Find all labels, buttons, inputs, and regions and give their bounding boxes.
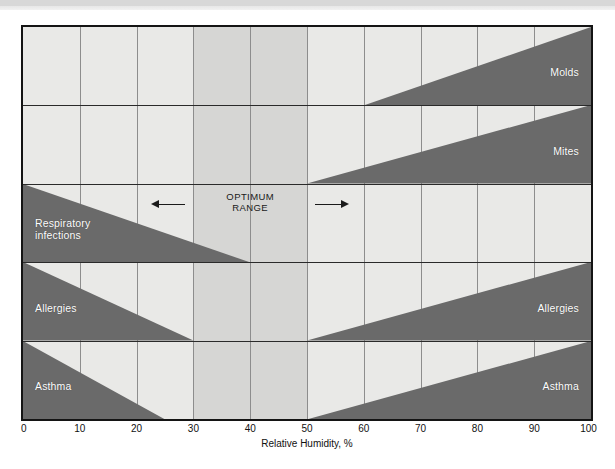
row-divider-4 [23, 341, 591, 342]
x-axis-title: Relative Humidity, % [21, 438, 593, 449]
optimum-range-label: OPTIMUM RANGE [193, 191, 307, 213]
band-label-mites: Mites [553, 145, 579, 157]
x-tick-100: 100 [580, 423, 597, 434]
optimum-arrow-head-left-icon [151, 200, 159, 208]
row-divider-1 [23, 105, 591, 106]
band-wedge-asthma-high-humidity [23, 341, 591, 419]
band-label-asthma-high-humidity: Asthma [543, 380, 580, 392]
band-wedge-allergies-high-humidity [23, 262, 591, 340]
x-tick-90: 90 [529, 423, 540, 434]
optimum-arrow-head-right-icon [341, 200, 349, 208]
band-row-0: Molds [23, 27, 591, 105]
band-row-1: Mites [23, 105, 591, 183]
band-label-allergies-high-humidity: Allergies [537, 302, 579, 314]
x-tick-70: 70 [415, 423, 426, 434]
optimum-arrow-line-right [315, 204, 341, 205]
humidity-health-chart-figure: MoldsMitesRespiratory infectionsAllergie… [0, 0, 615, 469]
x-tick-60: 60 [358, 423, 369, 434]
band-label-respiratory-infections: Respiratory infections [35, 217, 90, 241]
band-row-4: AsthmaAsthma [23, 341, 591, 419]
band-row-2: Respiratory infections [23, 184, 591, 262]
band-label-molds: Molds [550, 66, 579, 78]
x-tick-30: 30 [188, 423, 199, 434]
band-wedge-molds [23, 27, 591, 105]
band-wedge-mites [23, 105, 591, 183]
x-tick-20: 20 [131, 423, 142, 434]
x-tick-40: 40 [245, 423, 256, 434]
x-tick-50: 50 [301, 423, 312, 434]
optimum-arrow-line-left [159, 204, 185, 205]
x-tick-10: 10 [74, 423, 85, 434]
plot-area: MoldsMitesRespiratory infectionsAllergie… [21, 25, 593, 421]
row-divider-3 [23, 262, 591, 263]
x-tick-80: 80 [472, 423, 483, 434]
band-row-3: AllergiesAllergies [23, 262, 591, 340]
row-divider-2 [23, 184, 591, 185]
band-wedge-respiratory-infections [23, 184, 591, 262]
x-tick-0: 0 [21, 423, 27, 434]
